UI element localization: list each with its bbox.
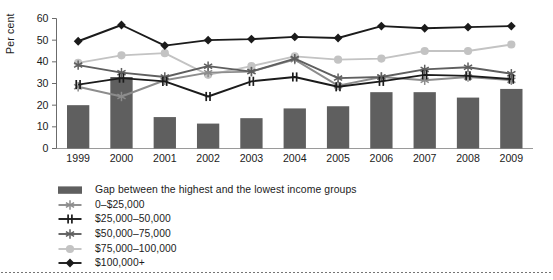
y-axis-tick-label: 60 — [37, 12, 49, 24]
legend-item-label: $100,000+ — [95, 257, 145, 269]
y-axis-tick-label: 20 — [37, 99, 49, 111]
marker-diamond — [377, 22, 386, 31]
bar — [67, 105, 89, 148]
legend-item-label: Gap between the highest and the lowest i… — [95, 184, 357, 196]
marker-circle — [464, 47, 472, 55]
x-axis-tick-label: 2001 — [153, 152, 177, 164]
marker-diamond — [334, 34, 343, 43]
y-axis-tick-label: 30 — [37, 77, 49, 89]
legend-item[interactable]: Gap between the highest and the lowest i… — [57, 183, 527, 198]
marker-diamond — [117, 21, 126, 30]
legend-marker-plus-bar-icon — [57, 212, 87, 226]
bar — [154, 117, 176, 148]
marker-diamond — [420, 24, 429, 33]
marker-circle — [66, 245, 74, 253]
chart-plot-area: 0102030405060199920002001200220032004200… — [0, 0, 553, 175]
legend-marker-star-icon — [57, 198, 87, 212]
marker-circle — [377, 54, 385, 62]
line-series-group — [74, 21, 516, 50]
y-axis-tick-label: 0 — [43, 142, 49, 154]
legend-item-label: $25,000–50,000 — [95, 213, 171, 225]
legend-item[interactable]: $25,000–50,000 — [57, 212, 527, 227]
marker-diamond — [290, 33, 299, 42]
bar — [457, 98, 479, 149]
marker-circle — [117, 51, 125, 59]
x-axis-tick-label: 2005 — [326, 152, 350, 164]
marker-circle — [334, 56, 342, 64]
bar — [500, 89, 522, 149]
x-axis-tick-label: 2006 — [370, 152, 394, 164]
legend-item-label: $50,000–75,000 — [95, 228, 171, 240]
legend-marker-asterisk-icon — [57, 227, 87, 241]
y-axis-tick-label: 50 — [37, 34, 49, 46]
marker-circle — [161, 49, 169, 57]
x-axis-tick-label: 1999 — [66, 152, 90, 164]
legend-item-label: $75,000–100,000 — [95, 243, 177, 255]
x-axis-tick-label: 2009 — [500, 152, 524, 164]
bar — [327, 106, 349, 148]
series-line — [78, 60, 511, 97]
y-axis-title: Per cent — [4, 13, 16, 54]
legend-item[interactable]: 0–$25,000 — [57, 198, 527, 213]
x-axis-tick-label: 2000 — [110, 152, 134, 164]
marker-diamond — [204, 36, 213, 45]
x-axis-tick-label: 2003 — [240, 152, 264, 164]
x-axis-tick-label: 2004 — [283, 152, 307, 164]
marker-diamond — [66, 259, 75, 268]
legend-item-label: 0–$25,000 — [95, 199, 145, 211]
marker-circle — [421, 47, 429, 55]
y-axis-tick-label: 40 — [37, 55, 49, 67]
bar — [284, 108, 306, 148]
x-axis-tick-label: 2002 — [196, 152, 220, 164]
marker-diamond — [74, 37, 83, 46]
x-axis-tick-label: 2008 — [456, 152, 480, 164]
marker-diamond — [464, 23, 473, 32]
marker-diamond — [247, 35, 256, 44]
y-axis-tick-label: 10 — [37, 120, 49, 132]
x-axis-tick-label: 2007 — [413, 152, 437, 164]
marker-diamond — [507, 22, 516, 31]
legend-item[interactable]: $50,000–75,000 — [57, 227, 527, 242]
legend-item[interactable]: $75,000–100,000 — [57, 241, 527, 256]
bar — [414, 92, 436, 148]
legend-marker-circle-icon — [57, 242, 87, 256]
bar — [197, 124, 219, 149]
bar — [370, 92, 392, 148]
chart-svg: 0102030405060199920002001200220032004200… — [0, 0, 553, 175]
bottom-dotted-rule — [0, 271, 553, 274]
figure-container: 0102030405060199920002001200220032004200… — [0, 0, 553, 280]
bar — [240, 118, 262, 148]
bar-series-group — [67, 77, 522, 149]
bar — [110, 77, 132, 149]
chart-legend: Gap between the highest and the lowest i… — [57, 183, 527, 271]
marker-circle — [507, 40, 515, 48]
legend-item[interactable]: $100,000+ — [57, 256, 527, 271]
marker-diamond — [160, 41, 169, 50]
legend-marker-diamond-icon — [57, 256, 87, 270]
legend-marker-square-icon — [57, 183, 87, 197]
